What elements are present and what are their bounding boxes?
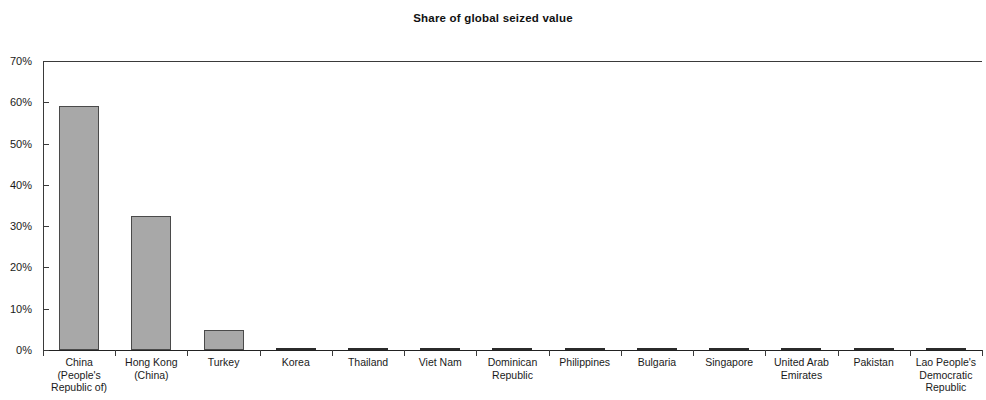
y-tick-mark <box>43 350 49 351</box>
bar-slot <box>549 61 621 350</box>
bar-slot <box>43 61 115 350</box>
y-tick-label: 10% <box>10 303 32 315</box>
x-tick-label: Lao People'sDemocraticRepublic <box>901 356 986 394</box>
bar[interactable] <box>204 330 244 350</box>
bar-chart: Share of global seized value 0%10%20%30%… <box>0 0 986 400</box>
y-tick-label: 20% <box>10 261 32 273</box>
bar-slot <box>765 61 837 350</box>
bar-slot <box>260 61 332 350</box>
y-tick-mark <box>43 144 49 145</box>
bar-slot <box>404 61 476 350</box>
bars-layer <box>43 61 982 350</box>
y-tick-mark <box>43 226 49 227</box>
y-tick-label: 0% <box>16 344 32 356</box>
y-tick-label: 70% <box>10 55 32 67</box>
y-axis: 0%10%20%30%40%50%60%70% <box>0 0 40 400</box>
bar[interactable] <box>131 216 171 350</box>
y-tick-mark <box>43 185 49 186</box>
y-tick-label: 40% <box>10 179 32 191</box>
bar-slot <box>838 61 910 350</box>
bar-slot <box>187 61 259 350</box>
bar-slot <box>910 61 982 350</box>
y-tick-label: 50% <box>10 138 32 150</box>
bar-slot <box>332 61 404 350</box>
y-tick-label: 30% <box>10 220 32 232</box>
y-tick-mark <box>43 102 49 103</box>
bar-slot <box>476 61 548 350</box>
bar-slot <box>693 61 765 350</box>
y-tick-mark <box>43 267 49 268</box>
bar-slot <box>621 61 693 350</box>
bar[interactable] <box>59 106 99 350</box>
y-tick-mark <box>43 309 49 310</box>
bar-slot <box>115 61 187 350</box>
y-tick-label: 60% <box>10 96 32 108</box>
chart-title: Share of global seized value <box>0 12 986 24</box>
x-axis-labels: China(People'sRepublic of)Hong Kong(Chin… <box>43 356 982 400</box>
